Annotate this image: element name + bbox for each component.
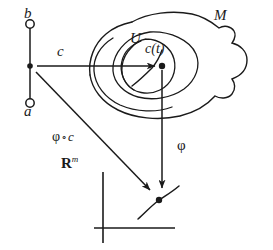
label-composite-phi: φ [52,129,60,144]
label-euclidean-dim: m [72,154,79,164]
label-euclidean-r: R [61,155,72,171]
label-manifold-M: M [214,8,227,23]
interval-endpoint-b [26,20,34,28]
label-interval-bottom-a: a [24,104,32,119]
label-chart-domain-U: U [130,31,141,46]
euclidean-axes [94,172,175,243]
label-curve-point-ct: c(t) [145,42,164,56]
manifold-chart-diagram: b a c c(t) U M φ∘c Rm φ [0,0,273,250]
label-composite-phi-circ-c: φ∘c [52,130,74,144]
label-composite-c: c [68,129,74,144]
open-interval-ab [26,20,34,107]
interval-point-t [27,63,33,69]
label-composite-ring: ∘ [60,131,68,142]
label-curve-map-c: c [57,44,64,59]
label-interval-top-b: b [24,6,32,21]
label-chart-map-phi: φ [177,138,186,153]
euclidean-point-phi-ct [156,197,162,203]
label-euclidean-space-rm: Rm [61,155,78,171]
manifold-point-ct [159,63,165,69]
